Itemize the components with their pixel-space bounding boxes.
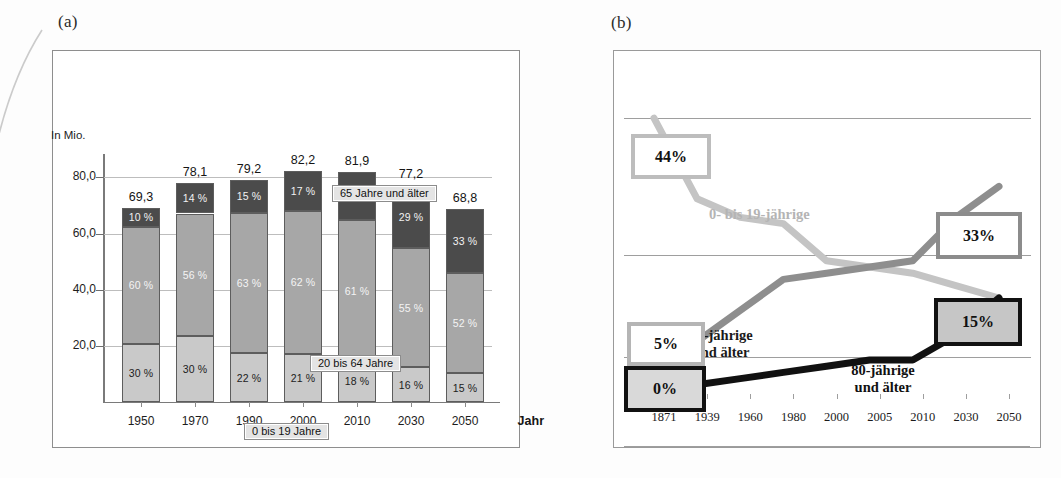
y-axis-tick	[96, 290, 104, 291]
bar-segment-0-19: 16 %	[392, 367, 430, 402]
bar-1970: 30 %56 %14 %	[176, 183, 214, 402]
bar-segment-0-19: 30 %	[176, 336, 214, 402]
bar-segment-65-plus: 17 %	[284, 171, 322, 210]
x-axis-tick	[465, 402, 466, 407]
b-x-axis-tick	[793, 394, 794, 399]
bar-segment-20-64: 63 %	[230, 213, 268, 353]
bar-segment-20-64: 62 %	[284, 211, 322, 354]
y-axis-tick	[96, 177, 104, 178]
x-axis-tick	[195, 402, 196, 407]
legend-callout-65-plus: 65 Jahre und älter	[332, 185, 437, 202]
panel-b-line-chart: 187119391960198020002005201020302050 0- …	[613, 50, 1041, 448]
series-label-80-plus-line1: 80-jährige	[851, 362, 915, 378]
panel-label-b: (b)	[611, 13, 632, 33]
b-x-axis-tick	[750, 394, 751, 399]
b-x-axis-label-2050: 2050	[979, 410, 1039, 425]
x-axis-tick	[303, 402, 304, 407]
panel-a-stacked-bar-chart: In Mio. 20,040,060,080,0 30 %60 %10 %69,…	[52, 50, 520, 448]
bar-total-label: 68,8	[430, 191, 500, 205]
bar-segment-65-plus: 33 %	[446, 209, 484, 273]
y-axis-tick-label: 80,0	[56, 169, 96, 183]
x-axis-tick	[249, 402, 250, 407]
x-axis-tick	[357, 402, 358, 407]
series-label-80-plus-line2: und älter	[855, 379, 912, 395]
x-axis-title: Jahr	[518, 414, 544, 428]
x-axis-label-2050: 2050	[430, 414, 500, 428]
bar-total-label: 69,3	[106, 190, 176, 204]
y-axis-tick-label: 40,0	[56, 282, 96, 296]
bar-segment-20-64: 52 %	[446, 273, 484, 373]
bar-segment-0-19: 22 %	[230, 353, 268, 402]
bar-total-label: 77,2	[376, 167, 446, 181]
callout-65-plus-end: 33%	[936, 212, 1022, 259]
bar-segment-20-64: 56 %	[176, 214, 214, 337]
y-axis-tick	[96, 346, 104, 347]
scan-artifact	[0, 28, 48, 140]
bar-segment-0-19: 15 %	[446, 373, 484, 402]
b-x-axis-tick	[707, 394, 708, 399]
bar-1950: 30 %60 %10 %	[122, 208, 160, 403]
y-axis-unit-label: In Mio.	[51, 129, 86, 141]
y-axis-tick-label: 60,0	[56, 226, 96, 240]
bar-1990: 22 %63 %15 %	[230, 180, 268, 402]
b-x-axis-tick	[966, 394, 967, 399]
callout-80-plus-start: 0%	[624, 366, 706, 412]
b-x-axis-tick	[1009, 394, 1010, 399]
y-axis-tick	[96, 234, 104, 235]
bar-segment-20-64: 55 %	[392, 248, 430, 367]
y-axis-line	[103, 154, 105, 403]
series-label-80-plus: 80-jährige und älter	[818, 362, 948, 395]
x-axis-tick	[141, 402, 142, 407]
panel-a-plot-area: 20,040,060,080,0 30 %60 %10 %69,3195030 …	[104, 155, 492, 402]
x-axis-tick	[411, 402, 412, 407]
y-axis-tick-label: 20,0	[56, 338, 96, 352]
legend-callout-0-19: 0 bis 19 Jahre	[244, 423, 329, 440]
callout-0-19-start: 44%	[631, 134, 711, 179]
bar-total-label: 81,9	[322, 154, 392, 168]
bar-segment-20-64: 60 %	[122, 227, 160, 344]
series-label-0-19: 0- bis 19-jährige	[709, 206, 810, 223]
bar-segment-65-plus: 10 %	[122, 208, 160, 227]
callout-65-plus-start: 5%	[627, 322, 705, 366]
bar-segment-0-19: 30 %	[122, 344, 160, 402]
bar-segment-20-64: 61 %	[338, 220, 376, 360]
bar-2050: 15 %52 %33 %	[446, 209, 484, 402]
population-pyramid-thumbnail-strip	[83, 55, 508, 113]
panel-label-a: (a)	[58, 12, 78, 32]
legend-callout-20-64: 20 bis 64 Jahre	[310, 355, 401, 372]
bar-segment-65-plus: 15 %	[230, 180, 268, 213]
bar-segment-65-plus: 14 %	[176, 183, 214, 214]
callout-0-19-end: 15%	[934, 298, 1022, 346]
figure-root: (a) (b) In Mio. 20,040,060,080,0 30 %60 …	[0, 0, 1061, 478]
